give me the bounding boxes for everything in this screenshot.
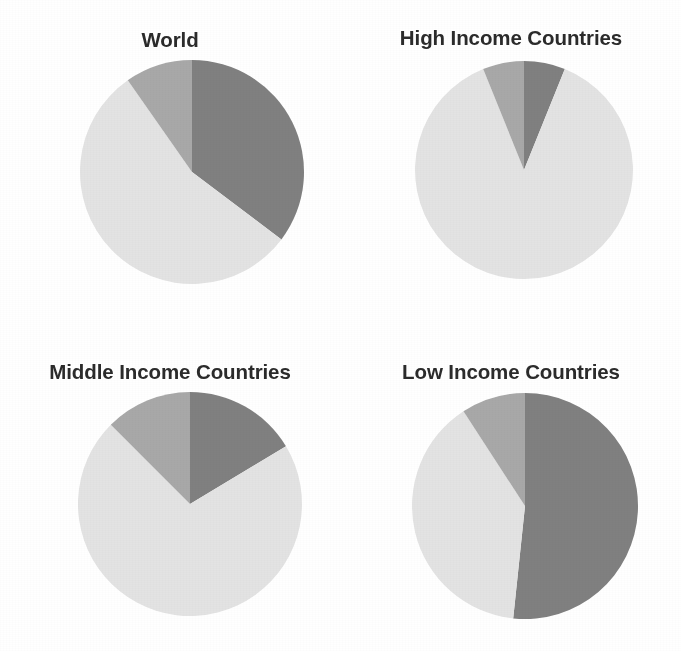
- pie-chart-2: dark 6.1%light 87.8%medium 6.1%: [413, 59, 635, 281]
- pie-chart-3: dark 16.4%light 71.1%medium 12.5%: [76, 390, 304, 618]
- pie-panel-1: Worlddark 35.3%light 55%medium 9.7%: [0, 0, 340, 330]
- panel-title-middle-income: Middle Income Countries: [0, 362, 340, 383]
- pie-chart-1: dark 35.3%light 55%medium 9.7%: [78, 58, 306, 286]
- pie-panel-2: High Income Countriesdark 6.1%light 87.8…: [341, 0, 681, 330]
- pie-slice-dark[interactable]: dark 51.7%: [513, 393, 638, 619]
- panel-title-low-income: Low Income Countries: [341, 362, 681, 383]
- pie-panel-4: Low Income Countriesdark 51.7%light 39.1…: [341, 331, 681, 651]
- pie-svg-2: dark 6.1%light 87.8%medium 6.1%: [413, 59, 635, 281]
- pie-panel-3: Middle Income Countriesdark 16.4%light 7…: [0, 331, 340, 651]
- pie-svg-4: dark 51.7%light 39.1%medium 9.2%: [410, 391, 640, 621]
- pie-svg-3: dark 16.4%light 71.1%medium 12.5%: [76, 390, 304, 618]
- pie-chart-figure: Worlddark 35.3%light 55%medium 9.7%High …: [0, 0, 681, 651]
- pie-svg-1: dark 35.3%light 55%medium 9.7%: [78, 58, 306, 286]
- panel-title-world: World: [0, 30, 340, 51]
- panel-title-high-income: High Income Countries: [341, 28, 681, 49]
- pie-chart-4: dark 51.7%light 39.1%medium 9.2%: [410, 391, 640, 621]
